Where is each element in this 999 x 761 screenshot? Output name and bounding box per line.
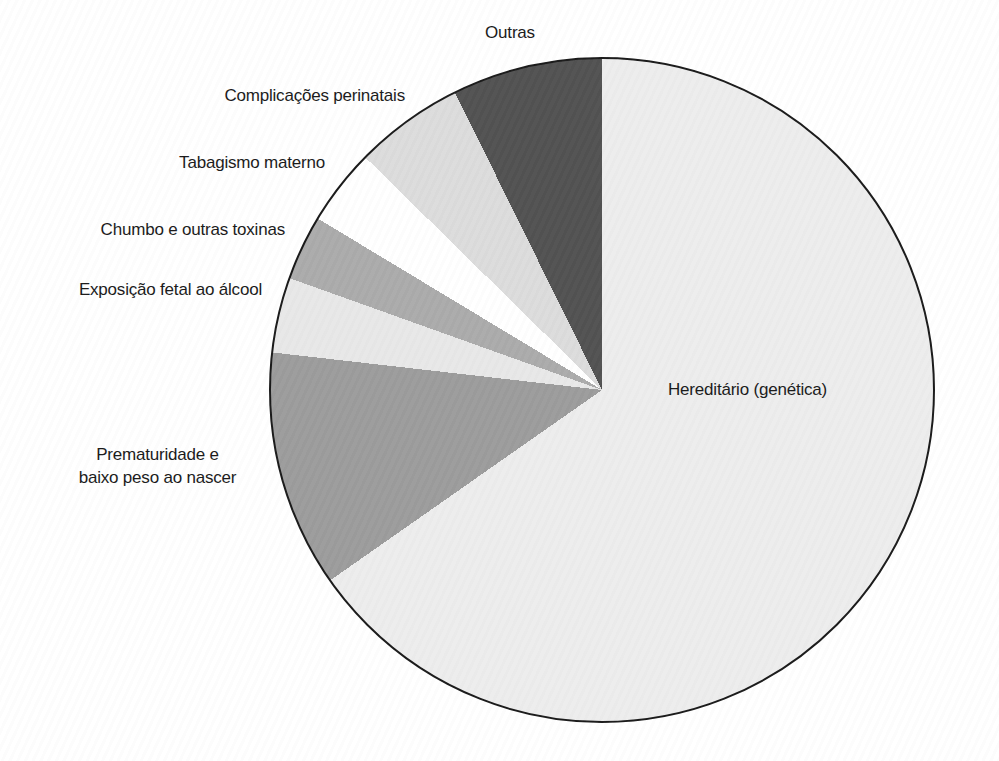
slice-label-prematuridade-baixo-peso: Prematuridade e baixo peso ao nascer	[50, 443, 265, 489]
slice-label-tabagismo-materno: Tabagismo materno	[115, 151, 325, 174]
slice-label-outras: Outras	[440, 21, 580, 44]
slice-label-prematuridade-line2: baixo peso ao nascer	[79, 468, 237, 487]
slice-label-hereditario-genetica: Hereditário (genética)	[668, 378, 898, 401]
slice-label-exposicao-fetal-ao-alcool: Exposição fetal ao álcool	[30, 278, 262, 301]
slice-label-complicacoes-perinatais: Complicações perinatais	[145, 84, 405, 107]
pie-chart-figure: Outras Complicações perinatais Tabagismo…	[0, 0, 999, 761]
slice-label-prematuridade-line1: Prematuridade e	[96, 445, 219, 464]
slice-label-chumbo-e-outras-toxinas: Chumbo e outras toxinas	[55, 218, 285, 241]
